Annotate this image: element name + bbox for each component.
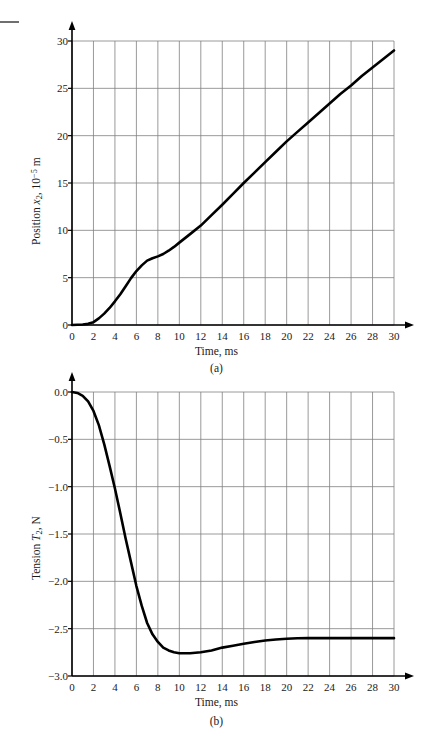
x-tick-b-0: 0	[69, 679, 75, 695]
y-tick-b-1: −0.5	[22, 433, 68, 445]
y-axis-label-a: Position x2, 10−5 m	[30, 157, 44, 245]
x-tick-b-2: 4	[112, 679, 118, 695]
x-tick-a-12: 24	[324, 328, 335, 344]
figure-b: 0.0−0.5−1.0−1.5−2.0−2.5−3.0 024681012141…	[0, 370, 433, 740]
y-tick-b-3: −1.5	[22, 528, 68, 540]
x-tick-a-3: 6	[134, 328, 140, 344]
x-tick-a-9: 18	[260, 328, 271, 344]
y-tick-a-4: 20	[22, 130, 68, 142]
x-tick-b-14: 28	[367, 679, 378, 695]
y-tick-a-1: 5	[22, 272, 68, 284]
x-tick-a-2: 4	[112, 328, 118, 344]
y-tick-b-6: −3.0	[22, 670, 68, 682]
y-tick-b-0: 0.0	[22, 386, 68, 398]
x-tick-b-15: 30	[389, 679, 400, 695]
gridlines-a	[72, 41, 394, 325]
x-tick-a-1: 2	[91, 328, 97, 344]
x-tick-a-6: 12	[195, 328, 206, 344]
y-axis-label-b: Tension T2, N	[30, 516, 44, 580]
y-tick-a-6: 30	[22, 35, 68, 47]
figure-page: 051015202530 024681012141618202224262830…	[0, 0, 433, 740]
x-tick-b-8: 16	[238, 679, 249, 695]
figure-a: 051015202530 024681012141618202224262830…	[0, 0, 433, 370]
x-tick-a-10: 20	[281, 328, 292, 344]
x-tick-a-5: 10	[174, 328, 185, 344]
plot-area-b	[72, 392, 394, 676]
figure-caption-b: (b)	[0, 715, 433, 727]
y-tick-b-5: −2.5	[22, 623, 68, 635]
plot-area-a	[72, 41, 394, 325]
y-tick-b-2: −1.0	[22, 481, 68, 493]
x-tick-a-14: 28	[367, 328, 378, 344]
x-tick-b-5: 10	[174, 679, 185, 695]
x-axis-label-b: Time, ms	[0, 696, 433, 708]
y-tick-a-2: 10	[22, 224, 68, 236]
x-tick-a-11: 22	[303, 328, 314, 344]
x-tick-b-10: 20	[281, 679, 292, 695]
y-tick-a-5: 25	[22, 82, 68, 94]
y-tick-b-4: −2.0	[22, 575, 68, 587]
x-tick-a-0: 0	[69, 328, 75, 344]
x-tick-b-13: 26	[346, 679, 357, 695]
y-tick-a-0: 0	[22, 319, 68, 331]
x-tick-labels-b: 024681012141618202224262830	[72, 679, 394, 695]
x-tick-b-7: 14	[217, 679, 228, 695]
x-tick-a-4: 8	[155, 328, 161, 344]
gridlines-b	[72, 392, 394, 676]
y-tick-a-3: 15	[22, 177, 68, 189]
x-tick-b-3: 6	[134, 679, 140, 695]
x-tick-a-8: 16	[238, 328, 249, 344]
x-tick-b-12: 24	[324, 679, 335, 695]
x-tick-b-11: 22	[303, 679, 314, 695]
x-tick-b-9: 18	[260, 679, 271, 695]
x-tick-a-7: 14	[217, 328, 228, 344]
x-tick-b-4: 8	[155, 679, 161, 695]
x-tick-b-1: 2	[91, 679, 97, 695]
x-tick-a-13: 26	[346, 328, 357, 344]
x-axis-label-a: Time, ms	[0, 345, 433, 357]
x-tick-labels-a: 024681012141618202224262830	[72, 328, 394, 344]
x-tick-a-15: 30	[389, 328, 400, 344]
x-tick-b-6: 12	[195, 679, 206, 695]
